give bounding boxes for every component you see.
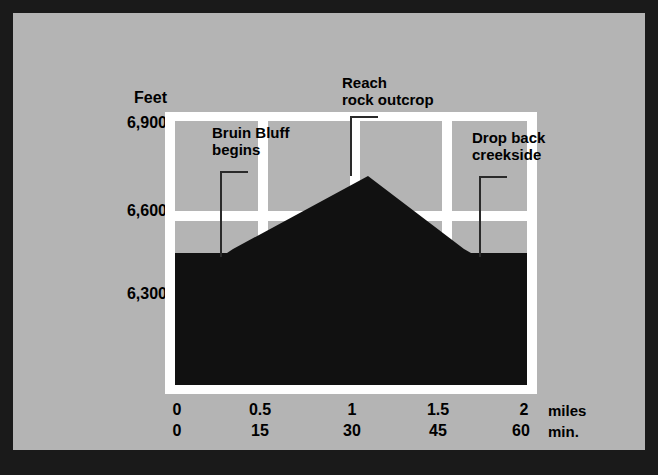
y-axis-tick-6300: 6,300 [75,285,167,303]
leader-line-reach-horizontal [350,116,378,118]
annotation-bruin-bluff: Bruin Bluff begins [212,125,289,159]
y-axis-title: Feet [85,89,167,107]
x-tick-miles-3: 1.5 [417,401,459,419]
leader-line-reach-vertical [350,116,352,176]
y-axis-tick-6600: 6,600 [75,202,167,220]
x-tick-minutes-1: 15 [239,422,281,440]
chart-page: Feet 6,900 6,600 6,300 Bruin Bluff begi [13,13,645,450]
leader-line-bruin-vertical [220,171,222,257]
x-tick-minutes-3: 45 [417,422,459,440]
annotation-reach-rock-outcrop: Reach rock outcrop [342,75,434,109]
x-tick-miles-2: 1 [340,401,364,419]
x-tick-miles-0: 0 [165,401,189,419]
x-axis: 0 0.5 1 1.5 2 miles 0 15 30 45 60 min. [165,401,569,443]
elevation-profile-screenshot: Feet 6,900 6,600 6,300 Bruin Bluff begi [0,0,658,475]
x-tick-minutes-0: 0 [165,422,189,440]
leader-line-bruin-horizontal [220,171,248,173]
x-tick-miles-4: 2 [512,401,536,419]
x-tick-minutes-2: 30 [340,422,364,440]
x-tick-minutes-4: 60 [505,422,537,440]
annotation-drop-back-creekside: Drop back creekside [472,130,545,164]
y-axis-tick-6900: 6,900 [75,114,167,132]
x-tick-miles-1: 0.5 [239,401,281,419]
x-axis-minutes-row: 0 15 30 45 60 min. [165,422,569,443]
x-axis-unit-miles: miles [548,402,586,419]
x-axis-miles-row: 0 0.5 1 1.5 2 miles [165,401,569,422]
leader-line-drop-vertical [479,176,481,257]
profile-fill-shape [175,176,527,385]
x-axis-unit-minutes: min. [548,423,579,440]
leader-line-drop-horizontal [479,176,507,178]
